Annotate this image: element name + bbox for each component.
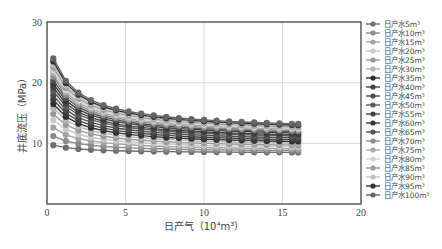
data-point [163, 114, 169, 120]
x-tick-label: 20 [356, 207, 366, 218]
legend-item: 日产水50m³ [366, 100, 425, 110]
x-tick-label: 10 [199, 207, 209, 218]
legend-marker-icon [370, 84, 375, 89]
legend-label: 日产水80m³ [384, 154, 425, 164]
legend-marker-icon [370, 138, 375, 143]
legend-marker-icon [370, 147, 375, 152]
x-axis-label: 日产气（10⁴m³） [164, 220, 244, 232]
legend-label: 日产水90m³ [384, 172, 425, 182]
legend-item: 日产水55m³ [366, 109, 425, 119]
legend-label: 日产水30m³ [384, 64, 425, 74]
data-point [138, 111, 144, 117]
data-point [201, 117, 207, 123]
data-point [100, 102, 106, 108]
legend-marker-icon [370, 21, 375, 26]
legend-label: 日产水95m³ [384, 181, 425, 191]
legend-label: 日产水85m³ [384, 163, 425, 173]
legend: 日产水5m³日产水10m³日产水15m³日产水20m³日产水25m³日产水30m… [366, 19, 430, 200]
data-point [276, 120, 282, 126]
legend-marker-icon [370, 30, 375, 35]
legend-label: 日产水35m³ [384, 73, 425, 83]
legend-marker-icon [370, 57, 375, 62]
data-point [188, 116, 194, 122]
legend-label: 日产水70m³ [384, 136, 425, 146]
data-point [151, 112, 157, 118]
legend-label: 日产水20m³ [384, 46, 425, 56]
legend-label: 日产水15m³ [384, 37, 425, 47]
data-point [113, 106, 119, 112]
legend-marker-icon [370, 48, 375, 53]
data-point [63, 78, 69, 84]
legend-item: 日产水85m³ [366, 163, 425, 173]
data-point [88, 97, 94, 103]
legend-marker-icon [370, 111, 375, 116]
data-point [251, 119, 257, 125]
data-point [176, 115, 182, 121]
plot-series [50, 55, 301, 155]
legend-marker-icon [370, 120, 375, 125]
x-tick-labels: 05101520 [45, 207, 367, 218]
x-tick-label: 5 [123, 207, 128, 218]
legend-label: 日产水5m³ [384, 19, 420, 29]
y-tick-labels: 102030 [32, 17, 42, 149]
legend-marker-icon [370, 156, 375, 161]
legend-item: 日产水65m³ [366, 127, 425, 137]
y-axis-label: 井底流压（MPa） [16, 73, 28, 153]
data-point [264, 120, 270, 126]
legend-label: 日产水45m³ [384, 91, 425, 101]
legend-marker-icon [370, 183, 375, 188]
y-tick-label: 30 [32, 17, 42, 28]
legend-marker-icon [370, 174, 375, 179]
legend-label: 日产水60m³ [384, 118, 425, 128]
legend-marker-icon [370, 129, 375, 134]
legend-label: 日产水75m³ [384, 145, 425, 155]
data-point [63, 132, 69, 138]
legend-label: 日产水100m³ [384, 190, 430, 200]
data-point [50, 142, 56, 148]
legend-marker-icon [370, 39, 375, 44]
legend-item: 日产水30m³ [366, 64, 425, 74]
data-point [289, 121, 295, 127]
data-point [63, 138, 69, 144]
legend-label: 日产水65m³ [384, 127, 425, 137]
data-point [50, 133, 56, 139]
data-point [126, 108, 132, 114]
legend-item: 日产水25m³ [366, 55, 425, 65]
legend-item: 日产水45m³ [366, 91, 425, 101]
legend-item: 日产水40m³ [366, 82, 425, 92]
legend-marker-icon [370, 93, 375, 98]
grid-lines [47, 22, 361, 204]
chart: 05101520 102030 日产气（10⁴m³） 井底流压（MPa） 日产水… [0, 0, 442, 249]
legend-item: 日产水90m³ [366, 172, 425, 182]
legend-item: 日产水35m³ [366, 73, 425, 83]
legend-marker-icon [370, 192, 375, 197]
data-point [213, 118, 219, 124]
data-point [50, 55, 56, 61]
legend-marker-icon [370, 75, 375, 80]
data-point [50, 111, 56, 117]
legend-label: 日产水40m³ [384, 82, 425, 92]
legend-label: 日产水25m³ [384, 55, 425, 65]
legend-item: 日产水15m³ [366, 37, 425, 47]
legend-item: 日产水75m³ [366, 145, 425, 155]
legend-item: 日产水20m³ [366, 46, 425, 56]
legend-item: 日产水95m³ [366, 181, 425, 191]
data-point [295, 121, 301, 127]
y-tick-label: 20 [32, 77, 42, 88]
x-tick-label: 0 [45, 207, 50, 218]
legend-marker-icon [370, 165, 375, 170]
legend-item: 日产水5m³ [366, 19, 420, 29]
data-point [239, 119, 245, 125]
legend-item: 日产水10m³ [366, 28, 425, 38]
y-tick-label: 10 [32, 138, 42, 149]
data-point [226, 118, 232, 124]
legend-item: 日产水60m³ [366, 118, 425, 128]
x-tick-label: 15 [278, 207, 288, 218]
data-point [75, 90, 81, 96]
legend-item: 日产水80m³ [366, 154, 425, 164]
legend-item: 日产水70m³ [366, 136, 425, 146]
legend-marker-icon [370, 102, 375, 107]
legend-label: 日产水50m³ [384, 100, 425, 110]
legend-label: 日产水55m³ [384, 109, 425, 119]
legend-label: 日产水10m³ [384, 28, 425, 38]
